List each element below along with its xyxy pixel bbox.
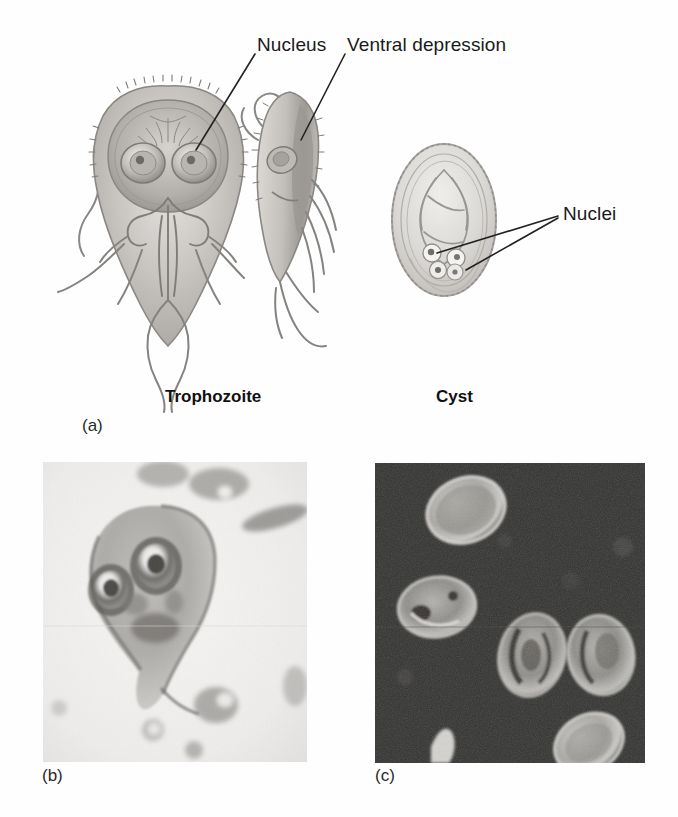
panel-c-micrograph <box>375 463 645 763</box>
cyst-drawing <box>392 144 496 296</box>
panel-letter-b: (b) <box>42 766 63 786</box>
caption-cyst: Cyst <box>436 387 473 407</box>
figure-giardia-morphology: Nucleus Ventral depression Nuclei Tropho… <box>0 0 678 817</box>
leader-line-nucleus <box>196 54 255 150</box>
trophozoite-lateral-drawing <box>242 92 336 346</box>
leader-line-ventral-depression <box>301 54 345 140</box>
label-nucleus: Nucleus <box>257 34 326 56</box>
leader-line-nuclei-lower <box>466 218 558 270</box>
darkfield-image <box>375 463 645 763</box>
caption-trophozoite: Trophozoite <box>165 387 261 407</box>
brightfield-image <box>43 462 307 762</box>
leader-line-nuclei-upper <box>437 216 558 253</box>
nucleus-shapes <box>121 143 216 183</box>
leader-lines <box>196 54 558 270</box>
panel-b-micrograph <box>43 462 307 762</box>
label-nuclei: Nuclei <box>563 203 616 225</box>
cyst-nuclei-shapes <box>423 244 465 280</box>
trophozoite-frontal-drawing <box>58 75 248 412</box>
panel-letter-c: (c) <box>375 766 395 786</box>
label-ventral-depression: Ventral depression <box>347 34 506 56</box>
panel-letter-a: (a) <box>82 416 103 436</box>
